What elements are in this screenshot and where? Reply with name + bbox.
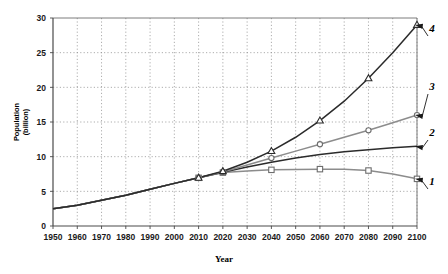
x-tick-label: 1970 [92, 232, 111, 242]
gridlines [53, 18, 417, 226]
x-tick-label: 2100 [408, 232, 427, 242]
x-tick-label: 2020 [213, 232, 232, 242]
marker-square-series-1 [269, 167, 274, 172]
marker-circle-series-3 [366, 128, 371, 133]
leader-line-1 [422, 181, 428, 189]
marker-square-series-1 [366, 168, 371, 173]
population-projection-chart: 1950196019701980199020002010202020302040… [0, 0, 448, 274]
series-number-labels: 4321 [428, 22, 435, 187]
leader-line-3 [422, 94, 428, 117]
y-tick-label: 5 [41, 187, 46, 197]
y-tick-label: 0 [41, 221, 46, 231]
leader-line-2 [422, 140, 428, 148]
marker-circle-series-3 [317, 142, 322, 147]
x-axis-tick-labels: 1950196019701980199020002010202020302040… [44, 232, 427, 242]
y-axis-tick-labels: 051015202530 [37, 13, 47, 231]
x-axis-title: Year [215, 254, 233, 264]
marker-square-series-1 [317, 166, 322, 171]
series-label-4: 4 [428, 22, 435, 34]
y-axis-title-line2: (billion) [21, 108, 30, 135]
x-tick-label: 1960 [68, 232, 87, 242]
series-line-3 [53, 115, 417, 209]
x-tick-label: 1990 [141, 232, 160, 242]
x-tick-label: 2050 [286, 232, 305, 242]
leader-line-4 [422, 27, 428, 36]
y-tick-label: 15 [37, 117, 47, 127]
series-label-1: 1 [429, 175, 435, 187]
x-tick-label: 2090 [383, 232, 402, 242]
y-tick-label: 30 [37, 13, 47, 23]
x-tick-label: 1950 [44, 232, 63, 242]
chart-canvas: 1950196019701980199020002010202020302040… [0, 0, 448, 274]
x-tick-label: 2010 [189, 232, 208, 242]
y-tick-label: 20 [37, 83, 47, 93]
y-axis-title-line1: Population [12, 102, 21, 141]
series-label-2: 2 [428, 126, 435, 138]
x-tick-label: 2000 [165, 232, 184, 242]
x-tick-label: 2060 [310, 232, 329, 242]
series-label-3: 3 [428, 80, 435, 92]
x-tick-label: 2070 [335, 232, 354, 242]
tickmarks [50, 18, 417, 229]
x-tick-label: 2080 [359, 232, 378, 242]
x-tick-label: 1980 [116, 232, 135, 242]
y-tick-label: 25 [37, 48, 47, 58]
series-line-1 [53, 169, 417, 209]
x-tick-label: 2030 [238, 232, 257, 242]
marker-circle-series-3 [269, 155, 274, 160]
data-markers [195, 21, 420, 181]
y-tick-label: 10 [37, 152, 47, 162]
x-tick-label: 2040 [262, 232, 281, 242]
